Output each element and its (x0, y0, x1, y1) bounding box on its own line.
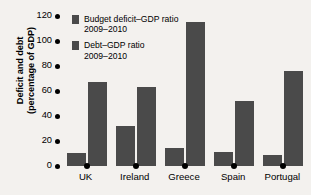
legend-item-deficit: Budget deficit–GDP ratio 2009–2010 (72, 14, 178, 34)
bar-group-spain (214, 16, 254, 166)
x-tick-dot-uk (84, 163, 90, 169)
y-tick-dot-100 (55, 39, 60, 44)
bar-portugal-debt[interactable] (284, 71, 303, 166)
y-tick-dot-0 (55, 164, 60, 169)
legend-label-debt-line1: Debt–GDP ratio (84, 40, 145, 50)
bar-ireland-deficit[interactable] (116, 126, 135, 166)
legend-swatch-icon-debt (72, 41, 79, 50)
bar-spain-debt[interactable] (235, 101, 254, 166)
bar-uk-debt[interactable] (88, 82, 107, 166)
x-tick-label-greece: Greece (159, 172, 208, 182)
y-axis-label-line1: Deficit and debt (15, 37, 25, 104)
x-tick-dot-greece (182, 163, 188, 169)
legend-label-deficit-line1: Budget deficit–GDP ratio (84, 14, 178, 24)
y-tick-label-60: 60 (26, 86, 52, 95)
legend-label-debt-line2: 2009–2010 (84, 51, 178, 61)
x-tick-label-ireland: Ireland (110, 172, 159, 182)
legend: Budget deficit–GDP ratio 2009–2010 Debt–… (72, 14, 178, 67)
bar-group-portugal (263, 16, 303, 166)
x-tick-label-uk: UK (61, 172, 110, 182)
y-tick-label-20: 20 (26, 136, 52, 145)
x-tick-label-spain: Spain (209, 172, 258, 182)
bar-uk-deficit[interactable] (67, 153, 86, 166)
y-tick-dot-120 (55, 14, 60, 19)
x-tick-dot-portugal (280, 163, 286, 169)
x-tick-label-portugal: Portugal (258, 172, 307, 182)
y-tick-dot-60 (55, 89, 60, 94)
legend-label-debt: Debt–GDP ratio 2009–2010 (84, 40, 178, 60)
y-tick-label-120: 120 (26, 11, 52, 20)
y-tick-label-0: 0 (26, 161, 52, 170)
legend-swatch-icon-deficit (72, 15, 79, 24)
bar-greece-deficit[interactable] (165, 148, 184, 166)
y-tick-label-40: 40 (26, 111, 52, 120)
y-tick-dot-20 (55, 139, 60, 144)
y-tick-label-80: 80 (26, 61, 52, 70)
y-tick-label-100: 100 (26, 36, 52, 45)
bar-greece-debt[interactable] (186, 22, 205, 166)
bar-chart: Deficit and debt (percentage of GDP) 0 2… (0, 0, 311, 195)
bar-ireland-debt[interactable] (137, 87, 156, 166)
legend-item-debt: Debt–GDP ratio 2009–2010 (72, 40, 178, 60)
y-tick-dot-40 (55, 114, 60, 119)
legend-label-deficit: Budget deficit–GDP ratio 2009–2010 (84, 14, 178, 34)
x-tick-dot-spain (231, 163, 237, 169)
x-tick-dot-ireland (133, 163, 139, 169)
legend-label-deficit-line2: 2009–2010 (84, 24, 178, 34)
y-tick-dot-80 (55, 64, 60, 69)
